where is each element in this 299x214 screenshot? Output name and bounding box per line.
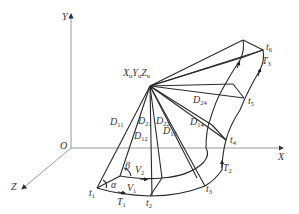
distance-D11: D11: [110, 117, 124, 129]
distance-D13: D13: [163, 126, 177, 138]
apex-label: XuYuZu: [123, 68, 150, 80]
distance-D24: D24: [193, 95, 207, 107]
trajectory-T1: T1: [117, 197, 126, 209]
z-axis-label: Z: [11, 182, 17, 192]
velocity-V1: V1: [127, 183, 136, 195]
point-t4: t4: [230, 135, 236, 147]
diagram-svg: [0, 0, 299, 214]
trajectory-T3: T3: [262, 56, 271, 68]
rung-t4: [212, 125, 226, 140]
distance-D21: D21: [138, 116, 152, 128]
diagram-canvas: Y X Z O XuYuZu t1 t2 t3 t4 t5 t6 T1 T2 T…: [0, 0, 299, 214]
angle-alpha: α: [111, 180, 116, 190]
top-cap: [243, 40, 263, 57]
point-t2: t2: [146, 198, 152, 210]
trajectory-T2: T2: [223, 163, 232, 175]
point-t5: t5: [248, 96, 254, 108]
point-t6: t6: [266, 42, 272, 54]
x-axis-label: X: [278, 152, 284, 162]
z-axis: [22, 148, 71, 189]
velocity-V2: V2: [135, 165, 144, 177]
point-t1: t1: [89, 188, 95, 200]
v2-arrow: [140, 179, 146, 180]
distance-D12: D12: [134, 131, 148, 143]
point-t3: t3: [206, 184, 212, 196]
y-axis-label: Y: [62, 12, 68, 22]
trajectory-outer-right: [222, 50, 264, 170]
rung-t5: [233, 84, 244, 98]
angle-beta: β: [125, 161, 130, 171]
distance-D14: D14: [190, 117, 204, 129]
origin-label: O: [60, 141, 67, 151]
